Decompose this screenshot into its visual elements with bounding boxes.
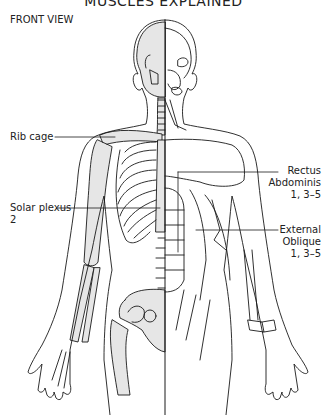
label-line: Abdominis (269, 177, 322, 189)
left-hand-bones (52, 350, 70, 388)
label-line: Rectus (269, 165, 322, 177)
label-line: 1, 3–5 (280, 248, 322, 260)
label-external-oblique: External Oblique 1, 3–5 (280, 224, 322, 260)
face-muscles (165, 28, 191, 130)
label-rectus-abdominis: Rectus Abdominis 1, 3–5 (269, 165, 322, 201)
label-line: Oblique (280, 236, 322, 248)
label-line: Rib cage (10, 131, 53, 143)
label-solar-plexus: Solar plexus 2 (10, 202, 71, 226)
label-rib-cage: Rib cage (10, 131, 53, 143)
label-line: 2 (10, 214, 71, 226)
label-line: Solar plexus (10, 202, 71, 214)
label-line: 1, 3–5 (269, 189, 322, 201)
label-line: External (280, 224, 322, 236)
